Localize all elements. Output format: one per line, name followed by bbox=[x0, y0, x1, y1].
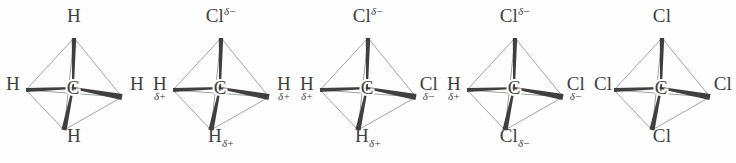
tetrahedron-edge bbox=[662, 38, 710, 97]
partial-charge: δ+ bbox=[369, 137, 381, 149]
atom-symbol: H bbox=[67, 5, 81, 26]
atom-label-right: H bbox=[130, 74, 144, 93]
atom-label-right: Cl bbox=[714, 74, 732, 93]
atom-label-left: H bbox=[6, 74, 20, 93]
molecule-trichloromethane: CCClδ−Hδ+Clδ−Clδ− bbox=[441, 0, 589, 163]
center-atom-label: C bbox=[508, 77, 521, 98]
atom-label-left: Hδ+ bbox=[153, 74, 167, 102]
partial-charge: δ+ bbox=[222, 137, 234, 149]
atom-symbol: Cl bbox=[653, 125, 671, 146]
atom-symbol: H bbox=[6, 73, 20, 94]
tetrahedron-edge bbox=[614, 90, 652, 130]
atom-label-top: Cl bbox=[653, 6, 671, 25]
tetrahedron-edge bbox=[221, 38, 269, 97]
partial-charge: δ− bbox=[518, 5, 530, 17]
atom-label-bottom: H bbox=[67, 126, 81, 145]
atom-symbol: H bbox=[355, 125, 369, 146]
partial-charge: δ− bbox=[518, 137, 530, 149]
atom-label-top: Clδ− bbox=[500, 6, 531, 25]
center-atom-label: C bbox=[67, 77, 80, 98]
atom-symbol: H bbox=[130, 73, 144, 94]
atom-label-top: Clδ− bbox=[353, 6, 384, 25]
molecular-structures-figure: CCHHHHCCClδ−Hδ+Hδ+Hδ+CCClδ−Hδ+Clδ−Hδ+CCC… bbox=[0, 0, 736, 163]
atom-symbol: Cl bbox=[500, 125, 518, 146]
atom-label-bottom: Cl bbox=[653, 126, 671, 145]
atom-label-left: Cl bbox=[594, 74, 612, 93]
atom-label-left: Hδ+ bbox=[300, 74, 314, 102]
partial-charge: δ− bbox=[371, 5, 383, 17]
atom-symbol: Cl bbox=[594, 73, 612, 94]
partial-charge: δ+ bbox=[300, 91, 314, 102]
atom-label-bottom: Hδ+ bbox=[355, 126, 381, 149]
atom-label-bottom: Hδ+ bbox=[208, 126, 234, 149]
molecule-methane: CCHHHH bbox=[0, 0, 148, 163]
atom-symbol: Cl bbox=[714, 73, 732, 94]
center-atom-label: C bbox=[361, 77, 374, 98]
tetrahedron-edge bbox=[467, 90, 505, 130]
molecule-tetrachloromethane: CCClClClCl bbox=[588, 0, 736, 163]
atom-label-top: H bbox=[67, 6, 81, 25]
tetrahedron-edge bbox=[320, 90, 358, 130]
partial-charge: δ+ bbox=[447, 91, 461, 102]
atom-symbol: Cl bbox=[653, 5, 671, 26]
tetrahedron-edge bbox=[173, 90, 211, 130]
atom-symbol: Cl bbox=[353, 5, 371, 26]
tetrahedron-edge bbox=[368, 38, 416, 97]
center-atom-label: C bbox=[214, 77, 227, 98]
partial-charge: δ− bbox=[224, 5, 236, 17]
molecule-dichloromethane: CCClδ−Hδ+Clδ−Hδ+ bbox=[294, 0, 442, 163]
atom-symbol: Cl bbox=[206, 5, 224, 26]
partial-charge: δ+ bbox=[153, 91, 167, 102]
atom-label-right: Clδ− bbox=[420, 74, 438, 102]
tetrahedron-edge bbox=[74, 38, 122, 97]
atom-label-bottom: Clδ− bbox=[500, 126, 531, 149]
atom-label-left: Hδ+ bbox=[447, 74, 461, 102]
atom-label-right: Hδ+ bbox=[277, 74, 291, 102]
atom-symbol: H bbox=[67, 125, 81, 146]
tetrahedron-edge bbox=[26, 90, 64, 130]
atom-symbol: Cl bbox=[500, 5, 518, 26]
atom-label-right: Clδ− bbox=[567, 74, 585, 102]
atom-symbol: H bbox=[208, 125, 222, 146]
atom-label-top: Clδ− bbox=[206, 6, 237, 25]
molecule-chloromethane: CCClδ−Hδ+Hδ+Hδ+ bbox=[147, 0, 295, 163]
tetrahedron-edge bbox=[515, 38, 563, 97]
partial-charge: δ+ bbox=[277, 91, 291, 102]
center-atom-label: C bbox=[655, 77, 668, 98]
